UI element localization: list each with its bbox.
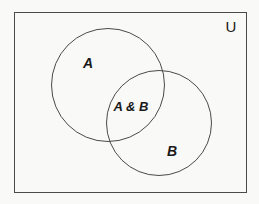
set-a-and-b-label: A & B bbox=[113, 99, 149, 114]
set-b-label: B bbox=[167, 143, 177, 159]
venn-diagram-canvas: U A B A & B bbox=[0, 0, 259, 204]
universal-set-label: U bbox=[226, 18, 237, 35]
set-a-label: A bbox=[82, 55, 93, 71]
set-b-circle bbox=[107, 71, 212, 176]
set-a-circle bbox=[52, 29, 165, 142]
venn-diagram-svg: U A B A & B bbox=[0, 0, 259, 204]
